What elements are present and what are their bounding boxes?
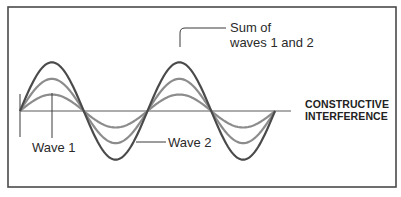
wave-2-label: Wave 2	[168, 135, 212, 150]
title-line2: INTERFERENCE	[305, 110, 388, 122]
sum-label-line1: Sum of	[230, 20, 271, 35]
sum-leader-line	[180, 28, 226, 47]
sum-label-line2: waves 1 and 2	[230, 35, 314, 50]
wave-1-label: Wave 1	[32, 140, 76, 155]
title-line1: CONSTRUCTIVE	[305, 98, 389, 110]
